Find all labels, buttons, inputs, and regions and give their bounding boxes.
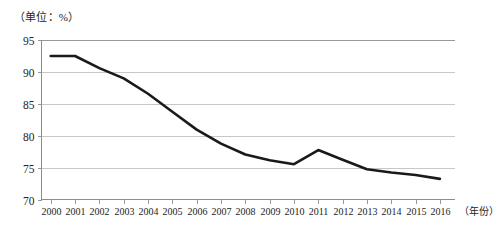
x-tick-label: 2010 (285, 206, 305, 217)
y-tick-label: 90 (23, 67, 35, 79)
x-tick-label: 2016 (431, 206, 451, 217)
gridlines-group (42, 41, 456, 169)
chart-plot-area: 707580859095 200020012002200320042005200… (0, 0, 502, 232)
x-tick-label: 2000 (42, 206, 62, 217)
x-tick-label: 2008 (236, 206, 256, 217)
x-tick-label: 2004 (139, 206, 159, 217)
y-tick-label: 70 (23, 195, 35, 207)
tick-marks-group (38, 41, 441, 204)
y-tick-label: 85 (23, 99, 35, 111)
x-tick-label: 2011 (309, 206, 329, 217)
x-tick-label: 2009 (261, 206, 281, 217)
x-axis-tick-labels: 2000200120022003200420052006200720082009… (42, 206, 451, 217)
y-tick-label: 95 (23, 35, 35, 47)
x-tick-label: 2006 (188, 206, 208, 217)
line-chart-figure: （单位：%） 707580859095 20002001200220032004… (0, 0, 502, 232)
x-tick-label: 2005 (163, 206, 183, 217)
y-tick-label: 80 (23, 131, 35, 143)
x-tick-label: 2013 (358, 206, 378, 217)
x-tick-label: 2003 (115, 206, 135, 217)
x-tick-label: 2015 (407, 206, 427, 217)
y-axis-tick-labels: 707580859095 (23, 35, 35, 207)
x-axis-title: （年份） (459, 205, 499, 217)
x-tick-label: 2001 (66, 206, 86, 217)
x-tick-label: 2002 (90, 206, 110, 217)
x-tick-label: 2012 (334, 206, 354, 217)
y-tick-label: 75 (23, 163, 35, 175)
data-series-line (51, 56, 440, 179)
x-tick-label: 2007 (212, 206, 232, 217)
x-tick-label: 2014 (382, 206, 402, 217)
